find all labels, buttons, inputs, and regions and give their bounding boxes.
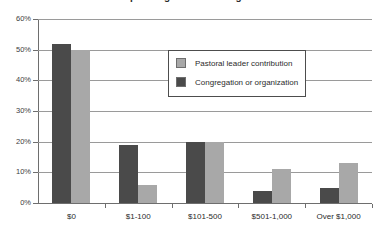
y-axis-tick-label: 30%: [16, 107, 31, 115]
legend-item-congregation-or-organization: Congregation or organization: [176, 77, 298, 87]
x-axis-tick-mark: [172, 204, 173, 208]
legend-swatch-icon: [176, 58, 186, 68]
bar: [186, 142, 205, 203]
x-axis-line: [38, 203, 372, 204]
bar: [339, 163, 358, 203]
y-axis-tick-mark: [33, 203, 38, 204]
bar: [272, 169, 291, 203]
bar: [205, 142, 224, 203]
y-axis-tick-label: 50%: [16, 46, 31, 54]
x-axis-tick-mark: [372, 204, 373, 208]
chart-legend: Pastoral leader contribution Congregatio…: [168, 50, 306, 97]
legend-item-label: Congregation or organization: [195, 78, 298, 87]
bar: [119, 145, 138, 203]
y-axis-tick-label: 40%: [16, 76, 31, 84]
bar: [320, 188, 339, 203]
x-axis-category-label: $0: [38, 212, 105, 221]
x-axis-category-label: $101-500: [172, 212, 239, 221]
bar: [253, 191, 272, 203]
bar: [52, 44, 71, 203]
x-axis-category-label: $501-1,000: [238, 212, 305, 221]
y-axis-tick-label: 10%: [16, 168, 31, 176]
x-axis-category-label: $1-100: [105, 212, 172, 221]
x-axis-category-label: Over $1,000: [305, 212, 372, 221]
bar: [71, 50, 90, 203]
legend-swatch-icon: [176, 77, 186, 87]
bar: [138, 185, 157, 203]
gridline: [38, 19, 372, 20]
x-axis-tick-mark: [105, 204, 106, 208]
y-axis-tick-label: 0%: [20, 199, 31, 207]
bar-chart: Annual spending on continuing education …: [0, 0, 380, 231]
y-axis-tick-label: 60%: [16, 15, 31, 23]
legend-item-pastoral-leader-contribution: Pastoral leader contribution: [176, 58, 292, 68]
chart-title: Annual spending on continuing education: [0, 0, 380, 2]
legend-item-label: Pastoral leader contribution: [195, 59, 292, 68]
x-axis-tick-mark: [238, 204, 239, 208]
y-axis-tick-label: 20%: [16, 138, 31, 146]
plot-area: [38, 19, 372, 203]
x-axis-tick-mark: [305, 204, 306, 208]
